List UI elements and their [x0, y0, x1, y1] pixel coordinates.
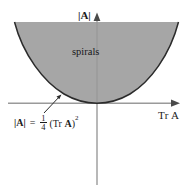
x-axis-label: Tr A: [158, 110, 179, 121]
equation-denominator: 4: [40, 122, 46, 132]
equation-factor: (Tr A)2: [50, 118, 79, 129]
equation-fraction: 1 4: [40, 114, 46, 133]
y-axis-arrowhead: [94, 13, 101, 22]
equation-equals: =: [30, 118, 36, 128]
equation-factor-open: (Tr: [50, 118, 62, 129]
y-axis-label: |A|: [78, 10, 91, 21]
equation-leader-line: [44, 96, 60, 113]
region-label-spirals: spirals: [72, 47, 99, 58]
equation-exponent: 2: [75, 114, 79, 122]
equation-lhs: |A|: [14, 118, 26, 128]
figure-container: |A| Tr A spirals |A| = 1 4 (Tr A)2: [0, 0, 194, 187]
curve-equation-label: |A| = 1 4 (Tr A)2: [14, 114, 79, 133]
equation-factor-bold: A: [64, 118, 71, 129]
parabola-diagram: [0, 0, 194, 187]
equation-numerator: 1: [40, 114, 46, 123]
x-axis-arrowhead: [171, 100, 180, 107]
